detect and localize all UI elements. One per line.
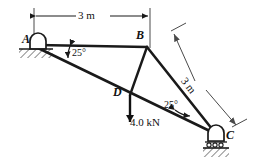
roller-wheel [213, 143, 217, 147]
node-label-b: B [136, 29, 144, 41]
roller-wheel [219, 143, 223, 147]
member-bd [130, 47, 147, 95]
dimension-tick-top [171, 23, 186, 31]
member-ab [38, 45, 147, 47]
pin-body [30, 33, 46, 49]
angle-label-a: 25° [72, 48, 86, 58]
angle-label-c: 25° [164, 100, 178, 110]
node-label-c: C [226, 129, 234, 141]
angle-marker-a [68, 46, 70, 58]
truss-diagram: A B C D 3 m 3 m 25° 25° 4.0 kN [0, 0, 262, 168]
dimension-bc [171, 23, 247, 127]
dimension-arrow-lower [206, 90, 236, 125]
load-label-d: 4.0 kN [130, 117, 160, 128]
ground-hatch-c [203, 148, 229, 157]
roller-body [208, 125, 224, 141]
dimension-label-ab: 3 m [76, 10, 97, 21]
node-label-d: D [113, 86, 122, 98]
node-label-a: A [22, 33, 30, 45]
ground-hatch-a [19, 49, 53, 58]
roller-wheel [207, 143, 211, 147]
diagram-canvas [0, 0, 262, 168]
angle-arc-a [68, 46, 70, 58]
